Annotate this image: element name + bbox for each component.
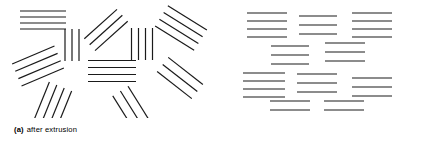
- chain-cluster-upper-mid-vertical: [65, 29, 79, 61]
- chain-cluster-right-diagonal-down: [157, 57, 203, 98]
- panel-a-caption-label: (a): [14, 125, 24, 134]
- chain-cluster-row1-right-horizontal: [352, 13, 392, 37]
- panel-a-caption-text: after extrusion: [27, 125, 77, 134]
- chain-cluster-row4-right-horizontal: [324, 101, 364, 118]
- chain-segment: [155, 26, 194, 50]
- chain-segment: [159, 19, 198, 43]
- panel-a: (a)after extrusion: [0, 0, 220, 148]
- chain-cluster-upper-right-vertical: [132, 28, 153, 60]
- chain-cluster-row2-right-horizontal: [325, 43, 365, 61]
- panel-a-caption: (a)after extrusion: [14, 126, 77, 134]
- chain-cluster-row1-center-horizontal: [299, 16, 337, 34]
- chain-segment: [34, 82, 49, 118]
- chain-segment: [168, 57, 203, 84]
- chain-segment: [12, 46, 54, 64]
- chain-cluster-bottom-left-diagonal-steep: [34, 82, 71, 118]
- panel-a-diagram: [0, 0, 220, 118]
- chain-segment: [22, 68, 64, 86]
- chain-cluster-top-left-horizontal: [20, 11, 66, 29]
- figure-root: (a)after extrusion (b)after 'cold-drawin…: [0, 0, 440, 148]
- panel-b: (b)after 'cold-drawing': [220, 0, 440, 148]
- chain-cluster-row2-left-horizontal: [271, 46, 309, 64]
- chain-segment: [163, 64, 198, 91]
- chain-cluster-left-diagonal-shallow: [12, 46, 64, 86]
- panel-a-svg: [0, 0, 220, 118]
- panel-b-svg: [220, 0, 440, 118]
- chain-cluster-upper-mid-diagonal-up: [84, 9, 127, 50]
- chain-cluster-center-horizontal: [88, 61, 136, 82]
- chain-segment: [164, 12, 203, 36]
- chain-cluster-top-right-diagonal-down: [155, 6, 207, 51]
- chain-segment: [168, 6, 207, 30]
- chain-segment: [157, 72, 192, 99]
- chain-segment: [18, 61, 60, 79]
- panel-b-diagram: [220, 0, 440, 118]
- chain-cluster-bottom-center-diagonal: [113, 86, 149, 118]
- chain-segment: [57, 91, 72, 118]
- chain-segment: [15, 53, 57, 71]
- chain-segment: [128, 86, 149, 118]
- chain-cluster-row1-left-horizontal: [247, 13, 287, 37]
- chain-cluster-row4-left-horizontal: [270, 101, 310, 118]
- chain-cluster-row3-right-horizontal: [352, 78, 392, 96]
- chain-cluster-row3-left-horizontal: [243, 73, 285, 97]
- chain-cluster-row3-center-horizontal: [297, 74, 337, 92]
